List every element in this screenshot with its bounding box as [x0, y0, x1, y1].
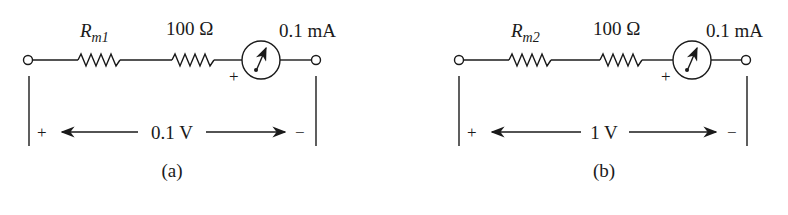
terminal-right-a	[312, 56, 321, 65]
meter-pivot	[254, 68, 258, 72]
meter-needle	[256, 48, 266, 71]
meter-polarity-b: +	[661, 67, 671, 86]
resistor2-label-b: 100 Ω	[593, 18, 640, 39]
voltage-plus-b: +	[467, 123, 477, 142]
caption-a: (a)	[161, 160, 182, 182]
meter-label-b: 0.1 mA	[706, 20, 763, 41]
terminal-right-b	[742, 56, 751, 65]
resistor-100-ohm-icon	[172, 54, 214, 66]
voltage-minus-b: −	[727, 123, 737, 142]
resistor-rm1-icon	[78, 54, 120, 66]
voltage-minus-a: −	[295, 123, 305, 142]
resistor-rm2-icon	[509, 54, 551, 66]
voltage-label-b: 1 V	[590, 122, 618, 143]
meter-needle	[687, 48, 697, 71]
terminal-left-a	[24, 56, 33, 65]
rm2-label: Rm2	[510, 20, 540, 45]
circuit-b: Rm2 100 Ω 0.1 mA + + − 1 V (b)	[455, 18, 764, 182]
voltage-label-a: 0.1 V	[151, 122, 193, 143]
voltage-plus-a: +	[37, 123, 47, 142]
caption-b: (b)	[593, 160, 615, 182]
rm1-label: Rm1	[79, 20, 109, 45]
resistor2-label-a: 100 Ω	[166, 18, 213, 39]
terminal-left-b	[455, 56, 464, 65]
circuit-a: Rm1 100 Ω 0.1 mA + + − 0.1 V (a)	[24, 18, 337, 182]
resistor-100-ohm-icon	[600, 54, 642, 66]
meter-polarity-a: +	[229, 67, 239, 86]
meter-pivot	[685, 68, 689, 72]
meter-label-a: 0.1 mA	[279, 20, 336, 41]
